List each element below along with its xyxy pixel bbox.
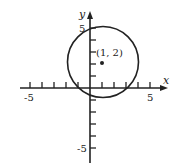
coordinate-plane: y x 5 -5 -5 5 (1, 2) (0, 0, 173, 163)
y-tick-label-5: 5 (79, 23, 85, 34)
y-axis-arrow-icon (87, 11, 93, 19)
center-point (100, 61, 104, 65)
y-tick-label-neg5: -5 (77, 143, 87, 154)
y-axis-label: y (78, 8, 86, 21)
x-axis-label: x (163, 74, 170, 87)
x-tick-label-neg5: -5 (24, 92, 34, 103)
center-label: (1, 2) (96, 47, 123, 58)
x-tick-label-5: 5 (147, 92, 153, 103)
